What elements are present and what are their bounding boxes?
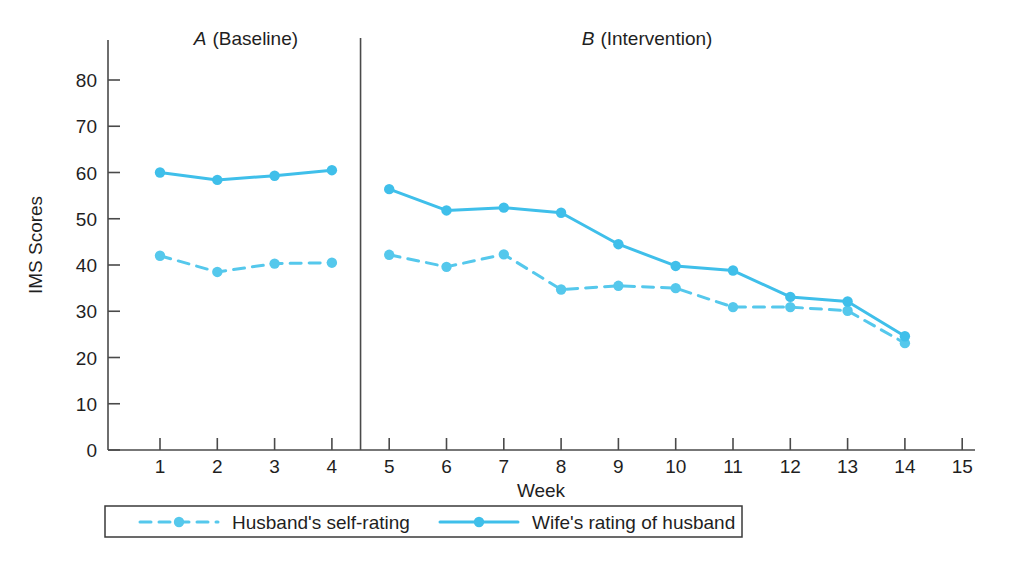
y-axis-title: IMS Scores: [25, 196, 46, 294]
data-point-marker: [842, 296, 852, 306]
y-axis-tick-labels: 01020304050607080: [76, 70, 97, 461]
phase-labels: A(Baseline)B(Intervention): [193, 28, 713, 49]
series-group: [155, 165, 910, 348]
data-point-marker: [269, 171, 279, 181]
phase-name: (Intervention): [600, 28, 712, 49]
data-point-marker: [671, 261, 681, 271]
data-point-marker: [900, 331, 910, 341]
x-tick-label: 1: [155, 456, 166, 477]
data-point-marker: [384, 184, 394, 194]
data-point-marker: [441, 262, 451, 272]
data-point-marker: [327, 165, 337, 175]
y-tick-label: 10: [76, 394, 97, 415]
x-tick-label: 10: [665, 456, 686, 477]
x-tick-label: 4: [327, 456, 338, 477]
x-tick-label: 13: [837, 456, 858, 477]
data-point-marker: [269, 258, 279, 268]
y-tick-label: 70: [76, 116, 97, 137]
data-point-marker: [384, 250, 394, 260]
data-point-marker: [728, 302, 738, 312]
series-line: [160, 256, 332, 272]
y-tick-label: 30: [76, 301, 97, 322]
data-point-marker: [155, 251, 165, 261]
x-axis: 123456789101112131415 Week: [108, 438, 975, 501]
x-tick-label: 14: [894, 456, 916, 477]
x-tick-label: 8: [556, 456, 567, 477]
series-wife-rating-of-husband: [155, 165, 910, 341]
ims-scores-line-chart: 01020304050607080 IMS Scores 12345678910…: [0, 0, 1019, 561]
data-point-marker: [556, 284, 566, 294]
y-tick-label: 40: [76, 255, 97, 276]
legend-label: Wife's rating of husband: [532, 512, 735, 533]
data-point-marker: [728, 265, 738, 275]
data-point-marker: [785, 292, 795, 302]
data-point-marker: [671, 283, 681, 293]
x-tick-label: 5: [384, 456, 395, 477]
x-tick-label: 9: [613, 456, 624, 477]
data-point-marker: [613, 281, 623, 291]
phase-label-a: A(Baseline): [193, 28, 298, 49]
legend-marker-sample: [174, 517, 184, 527]
chart-container: 01020304050607080 IMS Scores 12345678910…: [0, 0, 1019, 561]
phase-letter: A: [193, 28, 207, 49]
y-axis: 01020304050607080 IMS Scores: [25, 40, 120, 461]
data-point-marker: [613, 239, 623, 249]
phase-name: (Baseline): [213, 28, 299, 49]
data-point-marker: [499, 249, 509, 259]
y-tick-label: 0: [86, 440, 97, 461]
phase-label-b: B(Intervention): [582, 28, 713, 49]
y-tick-label: 50: [76, 209, 97, 230]
phase-letter: B: [582, 28, 595, 49]
data-point-marker: [212, 175, 222, 185]
x-tick-label: 6: [441, 456, 452, 477]
x-axis-ticks: [160, 438, 962, 450]
legend-marker-sample: [474, 517, 484, 527]
data-point-marker: [212, 267, 222, 277]
x-tick-label: 7: [499, 456, 510, 477]
x-tick-label: 15: [952, 456, 973, 477]
x-axis-title: Week: [517, 480, 566, 501]
y-axis-ticks: [108, 80, 120, 450]
data-point-marker: [155, 167, 165, 177]
data-point-marker: [499, 202, 509, 212]
x-tick-label: 12: [780, 456, 801, 477]
legend-label: Husband's self-rating: [232, 512, 410, 533]
y-tick-label: 60: [76, 163, 97, 184]
data-point-marker: [842, 306, 852, 316]
legend: Husband's self-ratingWife's rating of hu…: [105, 506, 742, 537]
x-tick-label: 11: [723, 456, 743, 477]
y-tick-label: 20: [76, 348, 97, 369]
series-line: [160, 170, 332, 180]
data-point-marker: [441, 205, 451, 215]
x-axis-tick-labels: 123456789101112131415: [155, 456, 973, 477]
y-tick-label: 80: [76, 70, 97, 91]
data-point-marker: [556, 208, 566, 218]
data-point-marker: [785, 302, 795, 312]
x-tick-label: 3: [269, 456, 280, 477]
x-tick-label: 2: [212, 456, 223, 477]
data-point-marker: [327, 257, 337, 267]
